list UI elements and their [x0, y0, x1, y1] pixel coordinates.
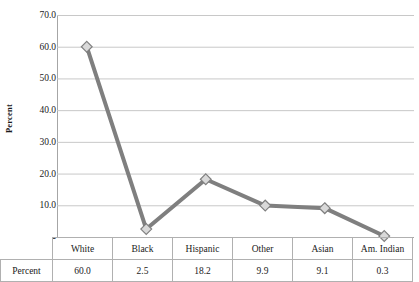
- data-point-marker: [81, 41, 92, 52]
- series-markers: [81, 41, 389, 241]
- y-tick-label: 70.0: [22, 10, 56, 20]
- gridlines: [57, 16, 414, 238]
- series-line: [87, 47, 385, 236]
- table-header-cell: Asian: [293, 238, 353, 260]
- y-tick-label: 30.0: [22, 137, 56, 147]
- table-value-cell: 2.5: [113, 260, 173, 282]
- table-value-cell: 0.3: [353, 260, 413, 282]
- table-row-label: Percent: [1, 260, 53, 282]
- table-value-cell: 9.9: [233, 260, 293, 282]
- table-header-row: WhiteBlackHispanicOtherAsianAm. Indian: [1, 238, 413, 260]
- data-table: WhiteBlackHispanicOtherAsianAm. Indian P…: [0, 237, 413, 282]
- table-header-cell: Other: [233, 238, 293, 260]
- table-value-cell: 9.1: [293, 260, 353, 282]
- table-value-row: Percent 60.02.518.29.99.10.3: [1, 260, 413, 282]
- y-axis-tick-labels: 70.060.050.040.030.020.010.0-: [19, 0, 56, 237]
- plot-svg: [57, 15, 414, 237]
- y-tick-label: 60.0: [22, 42, 56, 52]
- y-tick-label: 20.0: [22, 169, 56, 179]
- table-corner-cell: [1, 238, 53, 260]
- y-tick-label: 10.0: [22, 200, 56, 210]
- table-header-cell: Am. Indian: [353, 238, 413, 260]
- y-tick-label: 40.0: [22, 105, 56, 115]
- y-axis-title-label: Percent: [4, 104, 14, 133]
- data-line: [87, 47, 385, 236]
- table-value-cell: 18.2: [173, 260, 233, 282]
- table-header-cell: Hispanic: [173, 238, 233, 260]
- table-value-cell: 60.0: [53, 260, 113, 282]
- plot-area: [57, 15, 413, 237]
- y-axis-title: Percent: [0, 0, 18, 237]
- table-header-cell: White: [53, 238, 113, 260]
- y-tick-label: 50.0: [22, 73, 56, 83]
- table-header-cell: Black: [113, 238, 173, 260]
